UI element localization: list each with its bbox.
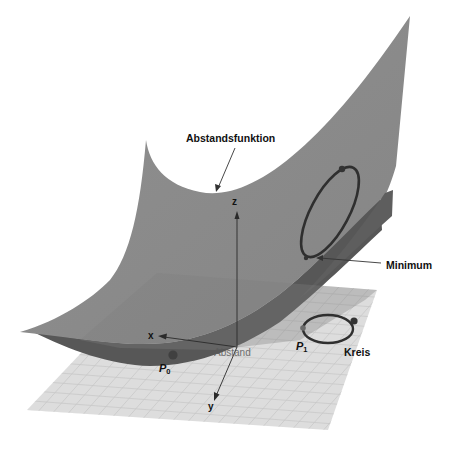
distance-function-diagram [0, 0, 452, 474]
label-abstand: Abstand [214, 348, 251, 358]
axis-label-z: z [232, 197, 237, 207]
distance-function-pointer-line [218, 148, 235, 188]
axis-label-y: y [208, 402, 214, 412]
axis-label-x: x [148, 331, 154, 341]
distance-function-arrowhead [215, 184, 221, 192]
label-p0-sub: 0 [166, 367, 170, 376]
point-p0 [168, 350, 177, 359]
label-minimum: Minimum [386, 260, 432, 271]
label-p1-sub: 1 [303, 345, 307, 354]
surface-circle-point [339, 166, 345, 172]
label-p0: P0 [159, 363, 171, 376]
minimum-point [304, 256, 308, 260]
label-abstandsfunktion: Abstandsfunktion [186, 133, 275, 144]
label-p1: P1 [296, 341, 308, 354]
point-p1 [300, 325, 306, 331]
label-kreis: Kreis [344, 347, 370, 358]
kreis-point [350, 317, 357, 324]
